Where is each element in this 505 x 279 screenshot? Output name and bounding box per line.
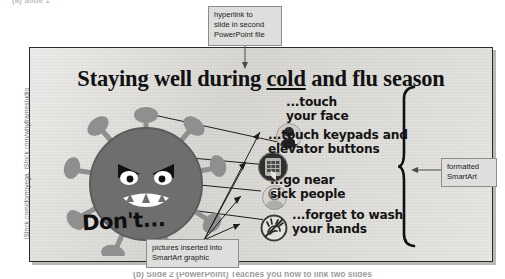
bullet-item-4: ...forget to wash your hands (292, 209, 403, 236)
powerpoint-slide: Staying well during cold and flu season (29, 47, 493, 262)
bullet-item-2: ...touch keypads and elevator buttons (268, 129, 408, 156)
virus-illustration: Don't... (60, 106, 235, 256)
figure-label-top: (a) Slide 1 (12, 0, 162, 5)
smartart-picture-4[interactable] (260, 214, 288, 242)
figure-caption-bottom: (b) Slide 2 (PowerPoint) Teaches you how… (0, 272, 505, 279)
callout-pictures-inserted: pictures inserted into SmartArt graphic (146, 239, 239, 268)
slide-title: Staying well during cold and flu season (30, 66, 492, 92)
slide-title-prefix: Staying well during (77, 66, 266, 91)
callout-hyperlink: hyperlink to slide in second PowerPoint … (208, 6, 282, 46)
image-credit: iStock.com/domoyega, iStock.com/whyframe… (23, 76, 30, 252)
figure-caption-bottom-text: (b) Slide 2 (PowerPoint) Teaches you how… (0, 272, 505, 279)
figure-label-top-text: (a) Slide 1 (12, 0, 162, 5)
bullet-item-3: ...go near sick people (270, 174, 345, 201)
dont-label: Don't... (81, 207, 165, 235)
bullet-item-1: ...touch your face (286, 96, 348, 123)
slide-title-suffix: and flu season (306, 66, 445, 91)
callout-formatted-smartart: formatted SmartArt (441, 158, 497, 187)
figure-label-top-right (465, 0, 495, 4)
slide-title-hyperlink[interactable]: cold (267, 66, 306, 91)
